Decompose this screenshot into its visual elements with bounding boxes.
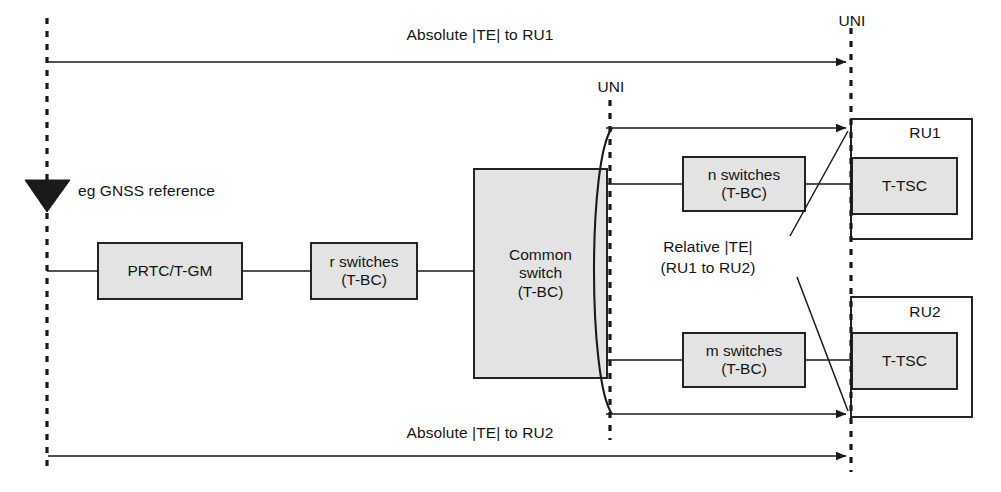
gnss-reference-label: eg GNSS reference	[78, 182, 215, 200]
ttsc-ru2-box	[852, 333, 957, 389]
ru2-label: RU2	[909, 303, 940, 321]
ru1-label: RU1	[909, 124, 940, 142]
absolute-te-ru2-label: Absolute |TE| to RU2	[406, 424, 553, 442]
diagram-canvas	[0, 0, 1001, 492]
gnss-antenna-icon	[25, 180, 70, 212]
r-switches-box	[311, 243, 417, 299]
relative-te-line-1: Relative |TE|	[663, 238, 752, 256]
n-switches-box	[683, 157, 805, 211]
uni-mid-label: UNI	[598, 78, 625, 96]
uni-top-label: UNI	[839, 12, 866, 30]
relative-te-line-2: (RU1 to RU2)	[660, 259, 755, 277]
prtc-tgm-box	[98, 243, 242, 299]
ttsc-ru1-box	[852, 158, 957, 214]
timing-error-diagram: Absolute |TE| to RU1 Absolute |TE| to RU…	[0, 0, 1001, 492]
common-switch-box	[474, 169, 607, 378]
m-switches-box	[683, 333, 805, 387]
absolute-te-ru1-label: Absolute |TE| to RU1	[406, 26, 553, 44]
